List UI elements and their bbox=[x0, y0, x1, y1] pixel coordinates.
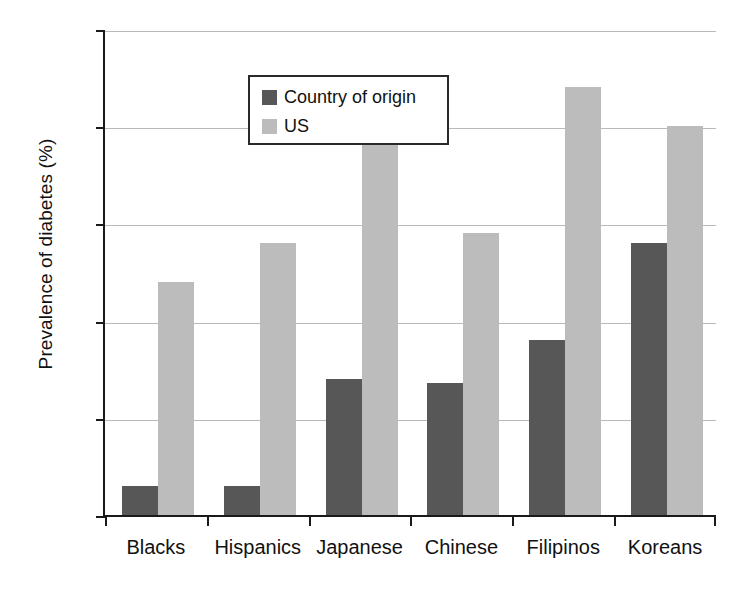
x-tick-label: Hispanics bbox=[207, 536, 309, 559]
bar-origin bbox=[427, 383, 463, 515]
bar-us bbox=[260, 243, 296, 515]
bar-us bbox=[463, 233, 499, 515]
bar-group: Koreans bbox=[614, 31, 716, 515]
x-tick-label: Blacks bbox=[105, 536, 207, 559]
y-axis-title: Prevalence of diabetes (%) bbox=[35, 104, 57, 404]
x-tick-mark bbox=[410, 515, 412, 526]
bar-group: Filipinos bbox=[512, 31, 614, 515]
legend-entry-us: US bbox=[262, 112, 447, 141]
plot-area: 0510152025 BlacksHispanicsJapaneseChines… bbox=[103, 31, 716, 517]
y-tick-mark bbox=[96, 224, 105, 226]
light-gray-swatch-icon bbox=[262, 119, 277, 134]
y-tick-mark bbox=[96, 516, 105, 518]
dark-gray-swatch-icon bbox=[262, 90, 277, 105]
x-tick-mark bbox=[207, 515, 209, 526]
y-tick-mark bbox=[96, 30, 105, 32]
x-tick-mark bbox=[309, 515, 311, 526]
bar-origin bbox=[631, 243, 667, 515]
x-tick-mark bbox=[105, 515, 107, 526]
y-tick-mark bbox=[96, 322, 105, 324]
x-tick-mark bbox=[512, 515, 514, 526]
bar-origin bbox=[529, 340, 565, 515]
x-tick-mark bbox=[614, 515, 616, 526]
bar-us bbox=[362, 126, 398, 515]
y-tick-mark bbox=[96, 127, 105, 129]
bar-us bbox=[565, 87, 601, 515]
legend-label-us: US bbox=[284, 116, 309, 137]
x-tick-mark bbox=[714, 515, 716, 526]
bar-chart: Prevalence of diabetes (%) 0510152025 Bl… bbox=[0, 0, 746, 590]
bar-origin bbox=[326, 379, 362, 515]
legend-label-country-of-origin: Country of origin bbox=[284, 87, 416, 108]
bar-us bbox=[158, 282, 194, 515]
bar-origin bbox=[224, 486, 260, 515]
bar-origin bbox=[122, 486, 158, 515]
x-tick-label: Koreans bbox=[614, 536, 716, 559]
x-tick-label: Japanese bbox=[309, 536, 411, 559]
x-tick-label: Chinese bbox=[410, 536, 512, 559]
y-tick-mark bbox=[96, 419, 105, 421]
legend: Country of origin US bbox=[248, 75, 449, 145]
x-tick-label: Filipinos bbox=[512, 536, 614, 559]
bar-group: Blacks bbox=[105, 31, 207, 515]
legend-entry-country-of-origin: Country of origin bbox=[262, 83, 447, 112]
bar-us bbox=[667, 126, 703, 515]
